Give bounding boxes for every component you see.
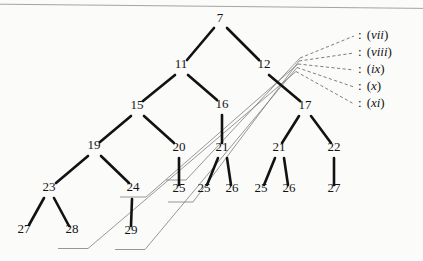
tree-edge-12-17 [269, 75, 300, 101]
fan-label-ix: :(ix) [358, 61, 385, 76]
fan-roman-1: vii [371, 27, 384, 42]
tree-edge-19-24 [101, 156, 129, 183]
tree-edge-19-23 [56, 156, 88, 183]
node-label-n21b: 21 [273, 139, 286, 154]
fan-label-vii: :(vii) [358, 27, 388, 42]
node-label-n26a: 26 [226, 180, 240, 195]
fan-label-viii: :(viii) [358, 44, 392, 59]
tree-edge-11-16 [188, 75, 217, 100]
tree-edge-11-15 [143, 75, 175, 101]
node-label-n11: 11 [175, 56, 188, 71]
fan-label-xi: :(xi) [358, 95, 385, 110]
node-label-n27b: 27 [328, 180, 342, 195]
tree-edge-7-12 [227, 28, 259, 60]
node-label-n23: 23 [43, 179, 56, 194]
dashed-leader-3 [298, 64, 354, 70]
node-label-n19: 19 [88, 137, 101, 152]
node-label-n12: 12 [258, 56, 271, 71]
node-label-n26b: 26 [283, 180, 297, 195]
fan-roman-3: ix [371, 61, 381, 76]
fan-label-x: :(x) [358, 78, 381, 93]
fan-colon-5: : [358, 95, 362, 110]
dashed-leader-1 [300, 36, 354, 58]
fan-roman-2: viii [371, 44, 388, 59]
top-rule-divider [0, 4, 423, 8]
node-label-n21a: 21 [216, 139, 229, 154]
tree-edge-15-20 [144, 116, 174, 143]
node-label-n22: 22 [328, 139, 341, 154]
tree-diagram: 7 11 12 15 16 17 19 20 21 21 22 23 24 25… [0, 0, 423, 261]
node-label-n25b: 25 [198, 180, 211, 195]
node-label-n25a: 25 [173, 180, 186, 195]
dashed-leader-4 [297, 68, 354, 88]
tree-edge-23-27 [29, 198, 44, 225]
node-label-n27a: 27 [18, 221, 32, 236]
marker-line-1 [58, 72, 296, 249]
node-label-n17: 17 [299, 97, 313, 112]
dashed-leader-2 [299, 53, 354, 61]
fan-colon-4: : [358, 78, 362, 93]
fan-colon-3: : [358, 61, 362, 76]
node-label-n20: 20 [173, 139, 186, 154]
node-label-n24: 24 [127, 179, 141, 194]
node-label-n28: 28 [66, 221, 79, 236]
node-label-n29: 29 [125, 222, 138, 237]
fan-roman-5: xi [370, 95, 381, 110]
node-label-n16: 16 [216, 96, 230, 111]
fan-colon-2: : [358, 44, 362, 59]
dashed-leaders-group [296, 36, 354, 104]
node-label-n7: 7 [217, 10, 224, 25]
fan-labels-group: :(vii) :(viii) :(ix) :(x) :(xi) [358, 27, 392, 110]
node-labels-group: 7 11 12 15 16 17 19 20 21 21 22 23 24 25… [18, 10, 342, 237]
fan-colon-1: : [358, 27, 362, 42]
tree-edge-15-19 [100, 116, 131, 142]
node-label-n25c: 25 [255, 180, 268, 195]
tree-edge-7-11 [187, 28, 214, 60]
node-label-n15: 15 [131, 97, 144, 112]
figure-canvas: 7 11 12 15 16 17 19 20 21 21 22 23 24 25… [0, 0, 423, 261]
